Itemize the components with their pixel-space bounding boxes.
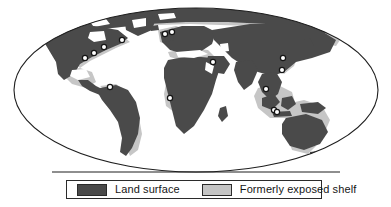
- marker-north-atlantic-europe-1: [162, 31, 167, 36]
- marker-south-america-north: [107, 84, 112, 89]
- world-map-canvas: [0, 0, 391, 207]
- legend-label-formerly-exposed-shelf: Formerly exposed shelf: [240, 184, 357, 195]
- land-surface-swatch: [77, 184, 107, 196]
- marker-north-america-ne-1: [101, 44, 106, 49]
- legend-label-land-surface: Land surface: [115, 184, 180, 195]
- marker-north-america-ne-2: [91, 50, 96, 55]
- marker-east-asia-1: [280, 55, 285, 60]
- legend-entry-formerly-exposed-shelf: Formerly exposed shelf: [202, 181, 357, 198]
- ocean-caspian: [220, 43, 229, 52]
- map-legend: Land surface Formerly exposed shelf: [66, 180, 322, 199]
- marker-west-africa: [167, 95, 172, 100]
- marker-east-asia-2: [279, 67, 284, 72]
- marker-north-atlantic-europe-2: [169, 29, 174, 34]
- land-iceland: [150, 25, 159, 31]
- world-map-figure: Land surface Formerly exposed shelf: [0, 0, 391, 207]
- marker-java-sea: [274, 109, 279, 114]
- marker-north-america-ne-4: [119, 37, 124, 42]
- land-new-zealand: [344, 136, 356, 152]
- marker-arabian-sea: [210, 59, 215, 64]
- marker-south-china-sea: [263, 86, 268, 91]
- legend-entry-land-surface: Land surface: [77, 181, 180, 198]
- marker-north-america-ne-3: [82, 55, 87, 60]
- formerly-exposed-shelf-swatch: [202, 184, 232, 196]
